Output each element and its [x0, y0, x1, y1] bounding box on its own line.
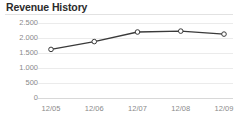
line-series-svg — [0, 15, 237, 123]
data-point-marker[interactable] — [178, 29, 183, 34]
data-point-marker[interactable] — [49, 47, 54, 52]
data-point-marker[interactable] — [92, 39, 97, 44]
chart-plot-area: 05001.0001.5002.0002.500 12/0512/0612/07… — [0, 15, 237, 123]
data-point-marker[interactable] — [135, 30, 140, 35]
revenue-history-chart-widget: Revenue History 05001.0001.5002.0002.500… — [0, 0, 237, 123]
page-title: Revenue History — [6, 1, 87, 13]
chart-header: Revenue History — [0, 0, 237, 15]
data-point-marker[interactable] — [222, 32, 227, 37]
